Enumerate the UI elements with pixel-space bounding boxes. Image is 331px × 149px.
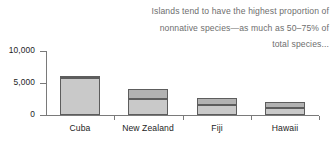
x-tick-mark	[114, 116, 115, 120]
category-label-new-zealand: New Zealand	[114, 123, 182, 133]
chart-figure: Islands tend to have the highest proport…	[0, 0, 331, 149]
y-tick-mark	[40, 115, 46, 116]
bar-segment-native	[197, 105, 237, 115]
bar-cuba	[60, 76, 100, 115]
bar-segment-nonnative	[265, 102, 305, 108]
bar-hawaii	[265, 102, 305, 115]
bar-segment-nonnative	[60, 76, 100, 78]
category-label-hawaii: Hawaii	[251, 123, 319, 133]
category-label-cuba: Cuba	[46, 123, 114, 133]
bar-segment-native	[128, 99, 168, 115]
y-tick-mark	[40, 83, 46, 84]
y-tick-label: 0	[0, 109, 35, 119]
bar-fiji	[197, 98, 237, 115]
y-axis-line	[46, 51, 47, 115]
x-tick-mark	[183, 116, 184, 120]
plot-area: 05,00010,000 CubaNew ZealandFijiHawaii	[0, 0, 331, 149]
y-tick-mark	[40, 51, 46, 52]
y-tick-label: 5,000	[0, 77, 35, 87]
bar-segment-native	[60, 78, 100, 115]
bar-segment-native	[265, 108, 305, 115]
x-tick-mark	[319, 116, 320, 120]
bar-segment-nonnative	[128, 89, 168, 99]
y-tick-label: 10,000	[0, 45, 35, 55]
category-label-fiji: Fiji	[183, 123, 251, 133]
x-tick-mark	[251, 116, 252, 120]
bar-new-zealand	[128, 89, 168, 115]
bar-segment-nonnative	[197, 98, 237, 105]
